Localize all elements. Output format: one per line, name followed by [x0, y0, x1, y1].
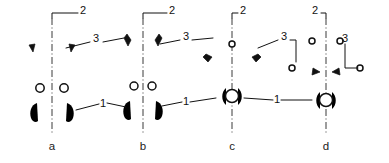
left-pivot-a — [36, 84, 44, 92]
callout-3-c: 3 — [281, 30, 287, 42]
callout-1-a: 1 — [100, 97, 106, 109]
callout-3-a: 3 — [93, 32, 99, 44]
left-pivot-b — [130, 82, 138, 90]
subfigure-label-b: b — [140, 140, 146, 152]
left-outer-pin-d — [289, 65, 295, 71]
callout-2-c: 2 — [240, 4, 246, 16]
figure-canvas: 2 2 2 2 3 3 3 3 1 1 1 a b c d — [0, 0, 389, 163]
right-pivot-b — [148, 82, 156, 90]
callout-3-b: 3 — [183, 30, 189, 42]
callout-2-b: 2 — [169, 4, 175, 16]
subfigure-label-c: c — [229, 140, 235, 152]
callout-2-d: 2 — [312, 4, 318, 16]
callout-2-a: 2 — [80, 4, 86, 16]
callout-1-b: 1 — [183, 95, 189, 107]
technical-diagram: 2 2 2 2 3 3 3 3 1 1 1 a b c d — [0, 0, 389, 163]
callout-1-c: 1 — [274, 93, 280, 105]
diagram-background — [0, 0, 389, 163]
subfigure-label-d: d — [323, 140, 329, 152]
callout-3-d: 3 — [342, 32, 348, 44]
subfigure-label-a: a — [49, 140, 56, 152]
right-pivot-a — [60, 84, 68, 92]
top-hub-pivot-c — [229, 41, 235, 47]
